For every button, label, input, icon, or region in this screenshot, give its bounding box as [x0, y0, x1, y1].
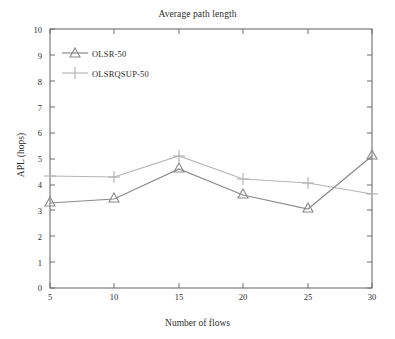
series-olsr-50-markers [45, 150, 377, 212]
y-axis-ticks [50, 29, 372, 288]
legend-marker-olsrqsup [62, 67, 88, 79]
legend-marker-olsr [62, 48, 88, 57]
plot-frame [50, 29, 372, 288]
chart-figure: Average path length APL (hops) Number of… [0, 0, 395, 339]
series-olsr-50 [45, 150, 377, 212]
series-olsrqsup-50-line [50, 156, 372, 194]
series-olsr-50-line [50, 156, 372, 209]
chart-canvas [0, 0, 395, 339]
x-axis-ticks [50, 29, 372, 288]
